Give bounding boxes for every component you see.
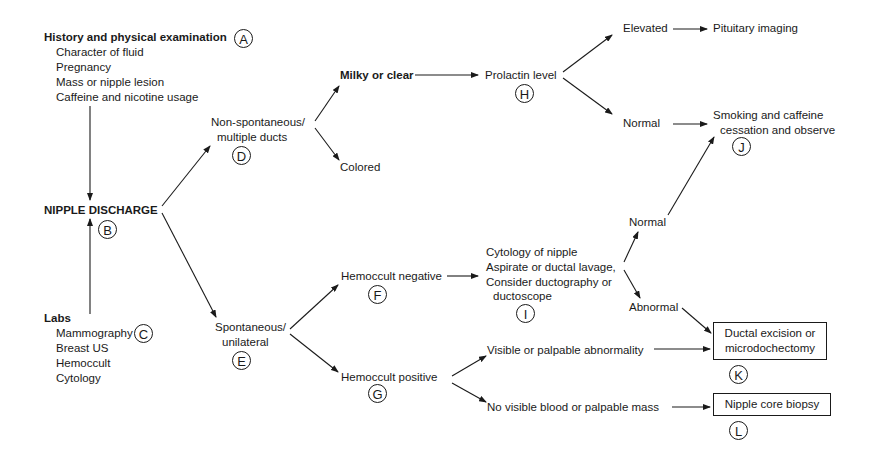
normal-cytology: Normal [629, 215, 666, 230]
core-biopsy-text: Nipple core biopsy [714, 397, 830, 412]
label-f-circle: F [368, 285, 387, 304]
label-d-circle: D [232, 146, 251, 165]
milky-or-clear: Milky or clear [340, 68, 414, 83]
nipple-discharge-title: NIPPLE DISCHARGE [44, 203, 158, 218]
history-item: Mass or nipple lesion [56, 75, 164, 90]
label-g-circle: G [368, 384, 387, 403]
prolactin-level: Prolactin level [485, 68, 557, 83]
hemoccult-negative: Hemoccult negative [341, 269, 442, 284]
colored: Colored [340, 160, 380, 175]
labs-item: Hemoccult [56, 356, 110, 371]
non-spontaneous-line: Non-spontaneous/ [211, 115, 305, 130]
pituitary-imaging: Pituitary imaging [713, 21, 798, 36]
cytology-line: ductoscope [493, 289, 552, 304]
nipple-core-biopsy-box: Nipple core biopsy [713, 393, 831, 416]
ductal-line: microdochectomy [714, 341, 826, 356]
label-i-circle: I [516, 304, 535, 323]
ductal-line: Ductal excision or [714, 326, 826, 341]
smoking-line: Smoking and caffeine [713, 108, 823, 123]
hemoccult-positive: Hemoccult positive [341, 370, 438, 385]
history-title: History and physical examination [44, 30, 227, 45]
spontaneous-line: unilateral [222, 335, 269, 350]
non-spontaneous-line: multiple ducts [217, 130, 287, 145]
labs-item: Cytology [56, 371, 101, 386]
history-item: Caffeine and nicotine usage [56, 90, 198, 105]
spontaneous-line: Spontaneous/ [215, 320, 286, 335]
cytology-line: Consider ductography or [486, 275, 612, 290]
elevated: Elevated [623, 21, 668, 36]
normal-prolactin: Normal [623, 116, 660, 131]
label-a-circle: A [234, 29, 253, 48]
labs-item: Breast US [56, 341, 108, 356]
label-c-circle: C [134, 324, 153, 343]
smoking-line: cessation and observe [720, 123, 835, 138]
abnormal-cytology: Abnormal [629, 300, 678, 315]
label-l-circle: L [729, 421, 748, 440]
label-j-circle: J [732, 137, 751, 156]
label-h-circle: H [515, 84, 534, 103]
visible-abnormality: Visible or palpable abnormality [487, 343, 643, 358]
ductal-excision-box: Ductal excision or microdochectomy [713, 322, 827, 360]
history-item: Character of fluid [56, 45, 144, 60]
no-visible-blood: No visible blood or palpable mass [487, 400, 659, 415]
labs-title: Labs [44, 311, 71, 326]
cytology-line: Aspirate or ductal lavage, [486, 260, 616, 275]
labs-item: Mammography [56, 326, 133, 341]
history-item: Pregnancy [56, 60, 111, 75]
label-k-circle: K [729, 365, 748, 384]
label-b-circle: B [98, 220, 117, 239]
label-e-circle: E [232, 351, 251, 370]
cytology-line: Cytology of nipple [486, 245, 577, 260]
